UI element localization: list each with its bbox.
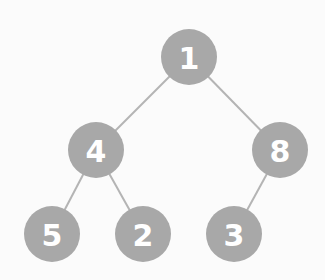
node-label: 8 bbox=[270, 134, 291, 169]
tree-node-5: 5 bbox=[24, 206, 80, 262]
tree-node-8: 8 bbox=[252, 122, 308, 178]
node-label: 5 bbox=[42, 218, 63, 253]
tree-node-1: 1 bbox=[161, 29, 217, 85]
node-label: 1 bbox=[179, 41, 200, 76]
node-label: 2 bbox=[133, 218, 154, 253]
tree-node-4: 4 bbox=[68, 122, 124, 178]
tree-node-3: 3 bbox=[206, 206, 262, 262]
node-label: 4 bbox=[86, 134, 107, 169]
node-label: 3 bbox=[224, 218, 245, 253]
tree-node-2: 2 bbox=[115, 206, 171, 262]
binary-tree-diagram: 1 4 8 5 2 3 bbox=[0, 0, 325, 280]
